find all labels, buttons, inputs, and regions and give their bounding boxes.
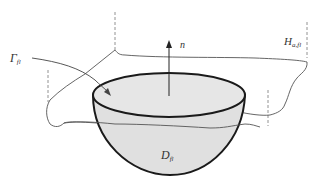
diagram-canvas: Γfl Ha,fl n⃗ Dfl: [0, 0, 322, 182]
gamma-label: Γfl: [10, 52, 21, 66]
surface-label: Ha,fl: [284, 36, 301, 49]
normal-vector-label: n⃗: [180, 40, 193, 50]
domain-label: Dfl: [161, 149, 174, 163]
normal-vector-arrowhead: [166, 40, 172, 48]
